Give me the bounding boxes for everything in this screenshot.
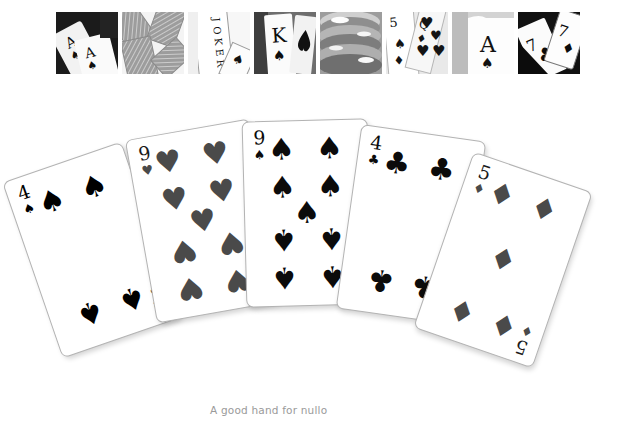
svg-text:5: 5 [389,15,399,31]
svg-text:♦: ♦ [393,53,405,68]
photo-ace-spades-icon: A ♠ [452,12,514,74]
svg-text:♥: ♥ [416,42,429,60]
card-pip: ♦ [484,177,519,214]
card-pip: ♣ [382,147,413,180]
header-photo-strip: A ♠ A ♠ [56,12,590,74]
photo-poker-chips-icon [320,12,382,74]
card-pip: ♠ [267,134,295,165]
card-pip: ♥ [159,182,191,216]
svg-text:E: E [214,48,226,56]
card-pip: ♦ [487,306,522,343]
card-pip: ♥ [200,137,232,171]
svg-text:O: O [211,26,223,35]
card-pip: ♦ [444,292,479,329]
card-pip: ♣ [426,153,457,186]
card-pip: ♦ [526,191,561,228]
figure-caption: A good hand for nullo [210,404,327,416]
card-pip: ♠ [268,172,296,203]
card-pip: ♠ [270,225,298,256]
photo-two-sevens-icon: 7 ♣ 7 ♦ [518,12,580,74]
svg-text:♠: ♠ [481,55,494,71]
card-pip: ♠ [316,171,344,202]
card-pip: ♠ [34,183,69,220]
svg-text:K: K [271,23,289,48]
svg-text:♠: ♠ [272,47,286,64]
card-pip: ♠ [72,295,107,332]
svg-text:♥: ♥ [430,28,442,43]
card-pip-layout: ♥ ♥ ♥ ♥ ♥ ♥ ♥ ♥ ♥ [149,133,256,308]
card-pip: ♥ [175,271,207,305]
card-pip: ♠ [115,280,150,317]
svg-text:A: A [479,32,497,57]
photo-joker-icon: J O K E R ♠ [188,12,250,74]
photo-card-backs-icon [122,12,184,74]
photo-five-hearts-icon: 5 ♠ ♦ Q ♦ ♥ ♥ ♥ ♥ [386,12,448,74]
photo-king-spades-icon: K ♠ [254,12,316,74]
card-pip: ♠ [318,223,346,254]
card-pip-layout: ♦ ♦ ♦ ♦ ♦ [438,169,567,350]
svg-text:♠: ♠ [394,36,407,52]
card-pip: ♥ [215,226,247,260]
svg-text:♥: ♥ [432,42,445,60]
card-pip: ♦ [485,241,520,278]
photo-two-aces-icon: A ♠ A ♠ [56,12,118,74]
card-pip: ♣ [365,264,396,297]
fanned-poker-hand: 4 ♠ 4 ♠ ♠ ♠ ♠ ♠ 9 ♥ 9 ♥ ♥ ♥ ♥ ♥ ♥ ♥ [0,95,622,395]
card-pip: ♠ [271,262,299,293]
card-pip: ♥ [168,234,200,268]
card-pip: ♠ [76,168,111,205]
card-pip: ♠ [315,133,343,164]
card-pip: ♥ [152,145,184,179]
card-pip: ♠ [293,198,321,229]
card-pip-layout: ♠ ♠ ♠ ♠ ♠ ♠ ♠ ♠ ♠ [265,130,349,296]
